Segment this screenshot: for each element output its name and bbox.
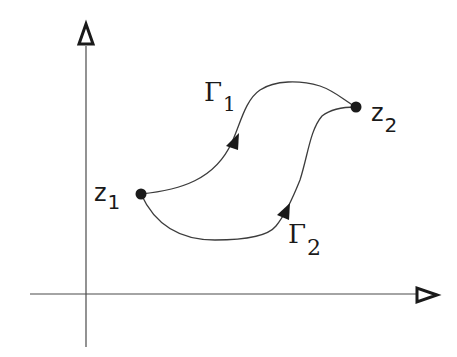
label-z1: z1 [94, 179, 120, 214]
path-gamma2 [141, 107, 356, 240]
label-z2-main: z [371, 99, 384, 127]
gamma2-direction-arrow-icon [277, 203, 290, 220]
label-z2-sub: 2 [385, 113, 398, 137]
label-gamma1-sub: 1 [223, 92, 236, 116]
label-gamma2-sub: 2 [307, 235, 321, 260]
gamma1-direction-arrow-icon [226, 133, 239, 150]
point-z2 [351, 102, 362, 113]
label-gamma1-main: Γ [204, 77, 222, 107]
x-axis [30, 288, 437, 302]
label-z2: z2 [371, 99, 397, 137]
y-axis [79, 24, 93, 347]
label-z1-sub: 1 [108, 190, 121, 214]
y-axis-arrow-icon [79, 24, 93, 44]
label-z1-main: z [94, 179, 107, 207]
x-axis-arrow-icon [417, 288, 437, 302]
path-gamma1 [141, 82, 356, 194]
contour-diagram: z1 z2 Γ1 Γ2 [0, 0, 457, 357]
label-gamma1: Γ1 [204, 77, 236, 116]
point-z1 [136, 189, 147, 200]
label-gamma2-main: Γ [288, 219, 306, 249]
label-gamma2: Γ2 [288, 219, 321, 260]
